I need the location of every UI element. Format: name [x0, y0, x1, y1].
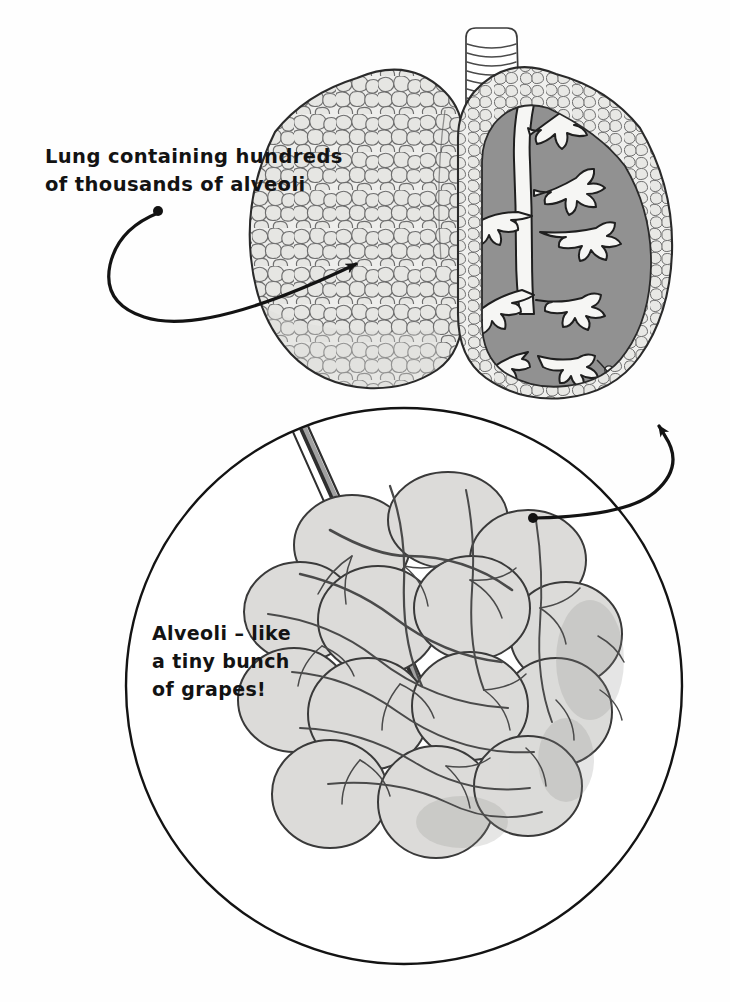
- illustration-canvas: Lung containing hundreds of thousands of…: [0, 0, 730, 1002]
- alveoli-callout-line3: of grapes!: [152, 678, 266, 700]
- lung-callout-line1: Lung containing hundreds: [45, 145, 343, 168]
- lung-callout-line2: of thousands of alveoli: [45, 173, 306, 196]
- alveoli-callout-line2: a tiny bunch: [152, 650, 290, 672]
- lung-alveoli-diagram: Lung containing hundreds of thousands of…: [0, 0, 730, 1002]
- alveoli-callout-line1: Alveoli – like: [152, 622, 291, 644]
